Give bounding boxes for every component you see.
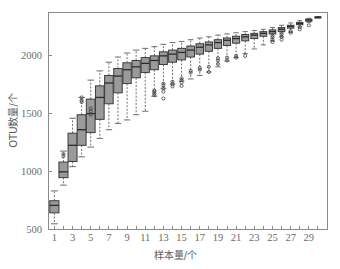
x-tick-label: 25 [267, 232, 278, 243]
x-tick-label: 19 [213, 232, 224, 243]
box-iqr [150, 56, 158, 70]
chart-page: 1357911131517192123252729 50010001500200… [0, 0, 340, 269]
box-iqr [95, 86, 104, 119]
box-iqr [223, 38, 230, 46]
box-iqr [141, 58, 149, 73]
box-iqr [123, 63, 131, 84]
box-iqr [50, 201, 59, 213]
box-iqr [169, 50, 177, 62]
x-tick-label: 1 [52, 232, 57, 243]
x-tick-label: 11 [140, 232, 150, 243]
y-tick-label: 2000 [21, 50, 42, 61]
box-iqr [214, 40, 221, 49]
box-iqr [233, 36, 240, 43]
box-iqr [132, 60, 140, 77]
y-tick-label: 1000 [21, 166, 42, 177]
box-iqr [187, 46, 195, 57]
box-iqr [196, 44, 203, 54]
x-tick-label: 13 [158, 232, 169, 243]
x-tick-label: 3 [70, 232, 75, 243]
box-iqr [159, 52, 167, 65]
x-tick-label: 17 [195, 232, 206, 243]
x-axis-title: 样本量/个 [154, 249, 197, 261]
x-tick-label: 9 [124, 232, 129, 243]
x-tick-label: 21 [231, 232, 242, 243]
y-tick-label: 1500 [21, 108, 42, 119]
box-iqr [105, 75, 114, 103]
boxplot-item [315, 17, 321, 18]
x-tick-label: 29 [304, 232, 315, 243]
x-tick-label: 27 [285, 232, 296, 243]
box-iqr [242, 35, 249, 41]
y-axis-title: OTU数量/个 [7, 93, 19, 148]
x-tick-label: 7 [106, 232, 111, 243]
box-iqr [114, 69, 122, 93]
x-tick-label: 5 [88, 232, 93, 243]
x-tick-label: 23 [249, 232, 260, 243]
box-iqr [59, 162, 68, 178]
x-tick-label: 15 [176, 232, 187, 243]
box-iqr [68, 133, 77, 161]
box-iqr [178, 48, 186, 60]
y-tick-label: 500 [26, 224, 42, 235]
box-iqr [205, 42, 212, 51]
box-iqr [251, 33, 258, 38]
boxplot-chart: 1357911131517192123252729 50010001500200… [0, 0, 340, 269]
